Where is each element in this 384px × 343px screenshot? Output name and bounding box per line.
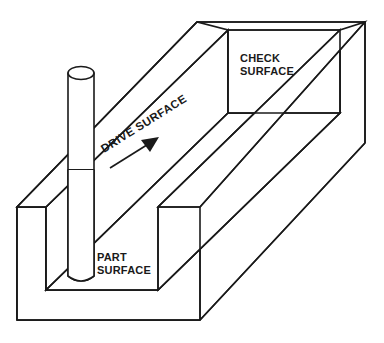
check-surface-label-line1: CHECK: [240, 52, 280, 64]
end-mill-tool: [66, 67, 96, 309]
tool-top-cap: [68, 67, 94, 80]
tool-shank: [68, 73, 94, 170]
tool-flute-outline: [68, 170, 94, 281]
machining-diagram-svg: CHECK SURFACE DRIVE SURFACE PART SURFACE: [0, 0, 384, 343]
check-surface-label-line2: SURFACE: [240, 65, 294, 77]
part-surface-label-line1: PART: [97, 251, 127, 263]
diagram-canvas: CHECK SURFACE DRIVE SURFACE PART SURFACE: [0, 0, 384, 343]
part-surface-label-line2: SURFACE: [97, 264, 151, 276]
